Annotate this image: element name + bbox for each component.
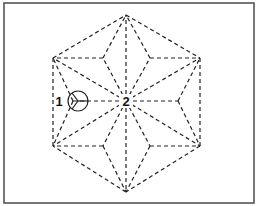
label-1: 1	[55, 94, 62, 109]
fold-diagram: 1 2	[0, 0, 258, 206]
label-2: 2	[122, 94, 129, 109]
